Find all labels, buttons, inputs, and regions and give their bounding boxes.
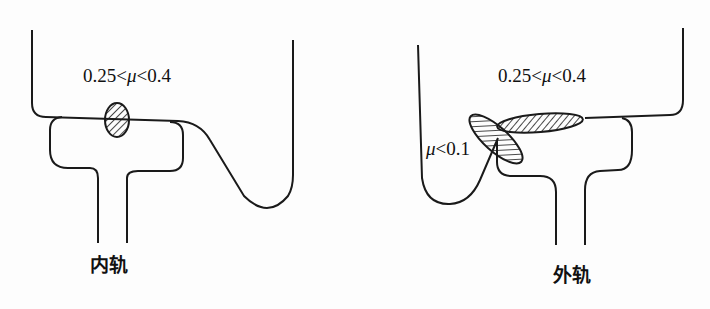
inner-rail-caption: 内轨 (90, 250, 128, 277)
outer-rail-caption: 外轨 (553, 260, 591, 287)
outer-tread-contact-zone (496, 110, 583, 135)
outer-flange-contact-label: μ<0.1 (426, 138, 470, 160)
outer-rail-profile (497, 118, 632, 245)
inner-contact-zone (105, 103, 129, 137)
inner-contact-label: 0.25<μ<0.4 (83, 65, 171, 87)
outer-tread-contact-label: 0.25<μ<0.4 (498, 65, 586, 87)
figure-canvas: 0.25<μ<0.4 0.25<μ<0.4 μ<0.1 内轨 外轨 (0, 0, 710, 309)
inner-wheel-profile (32, 30, 293, 208)
